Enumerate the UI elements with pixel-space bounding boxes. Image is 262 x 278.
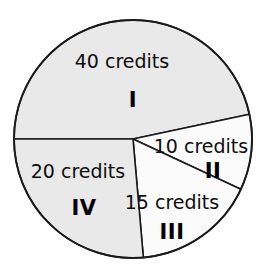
slice-iii-value-label: 15 credits — [125, 191, 219, 213]
slice-ii-roman-label: II — [205, 159, 222, 183]
slice-iii-roman-label: III — [160, 220, 185, 244]
slice-iv-value-label: 20 credits — [31, 160, 125, 182]
slice-i-value-label: 40 credits — [75, 50, 169, 72]
slice-i-roman-label: I — [129, 88, 137, 112]
pie-chart-canvas: 40 credits I 10 credits II 15 credits II… — [0, 0, 262, 278]
slice-ii-value-label: 10 credits — [154, 135, 248, 157]
pie-chart-figure: 40 credits I 10 credits II 15 credits II… — [0, 0, 262, 278]
slice-iv-roman-label: IV — [71, 196, 96, 220]
